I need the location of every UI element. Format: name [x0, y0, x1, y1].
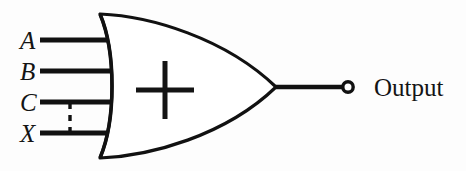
or-gate-body	[100, 14, 276, 158]
input-label-b: B	[20, 58, 35, 85]
input-label-a: A	[18, 27, 36, 54]
input-label-x: X	[19, 120, 37, 147]
schematic-canvas: A B C X Output	[0, 0, 466, 171]
logic-gate-diagram: A B C X Output	[0, 0, 466, 171]
output-label: Output	[374, 74, 444, 101]
output-terminal-circle	[343, 82, 353, 92]
input-label-c: C	[20, 89, 37, 116]
